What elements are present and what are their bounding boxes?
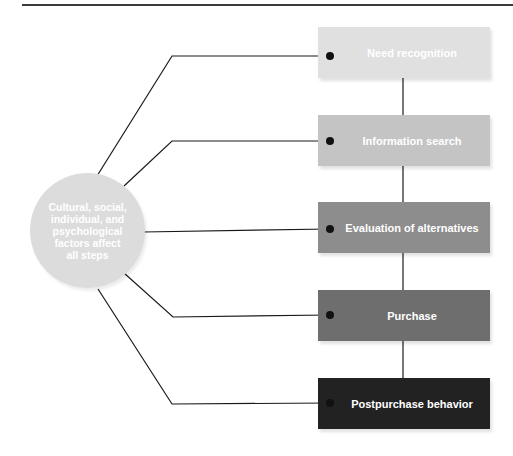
dot-icon — [326, 137, 334, 145]
dot-icon — [326, 225, 334, 233]
connector-dots — [0, 0, 513, 456]
dot-icon — [326, 52, 334, 60]
dot-icon — [326, 311, 334, 319]
dot-icon — [326, 399, 334, 407]
